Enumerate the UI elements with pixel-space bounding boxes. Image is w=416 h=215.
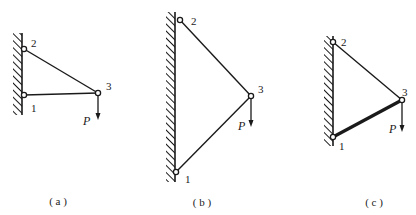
- pin-joint-icon: [177, 17, 182, 22]
- load-label: P: [237, 119, 246, 133]
- node-label-1: 1: [185, 173, 191, 185]
- pin-joint-icon: [173, 169, 178, 174]
- node-label-3: 3: [402, 86, 408, 98]
- pin-joint-icon: [399, 97, 404, 102]
- arrow-down-icon: [249, 120, 254, 127]
- figure-c: P123( c ): [324, 36, 408, 209]
- wall-hatch-icon: [13, 33, 22, 115]
- pin-joint-icon: [21, 46, 26, 51]
- node-label-1: 1: [339, 140, 345, 152]
- node-label-3: 3: [258, 83, 264, 95]
- pin-joint-icon: [248, 93, 253, 98]
- arrow-down-icon: [96, 113, 101, 120]
- bar-2-3: [180, 20, 251, 96]
- node-label-2: 2: [191, 15, 197, 27]
- figure-caption: ( b ): [193, 196, 212, 209]
- wall-hatch-icon: [324, 36, 333, 146]
- pin-joint-icon: [330, 134, 335, 139]
- node-label-1: 1: [31, 102, 37, 114]
- pin-joint-icon: [95, 90, 100, 95]
- pin-joint-icon: [21, 92, 26, 97]
- figure-b: P123( b ): [166, 12, 264, 209]
- figure-caption: ( a ): [49, 195, 67, 208]
- bar-2-3: [333, 42, 402, 100]
- figure-caption: ( c ): [365, 196, 383, 209]
- figure-a: P123( a ): [13, 33, 112, 208]
- pin-joint-icon: [330, 39, 335, 44]
- node-label-3: 3: [106, 80, 112, 92]
- bar-1-3: [24, 93, 98, 95]
- load-label: P: [82, 114, 91, 128]
- arrow-down-icon: [400, 125, 405, 132]
- bar-2-3: [24, 49, 98, 93]
- truss-diagram-canvas: P123( a ) P123( b ) P123( c ): [0, 0, 416, 215]
- node-label-2: 2: [341, 36, 347, 48]
- wall-hatch-icon: [166, 12, 175, 182]
- node-label-2: 2: [31, 37, 37, 49]
- load-label: P: [388, 122, 397, 136]
- bar-1-3: [176, 96, 251, 172]
